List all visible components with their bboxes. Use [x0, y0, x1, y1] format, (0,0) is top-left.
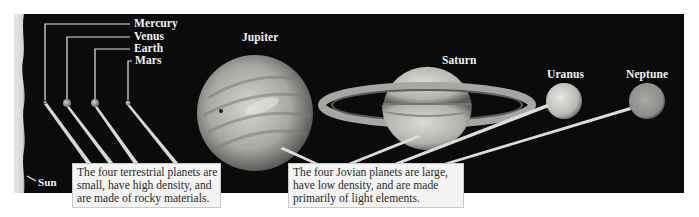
mars-planet — [126, 101, 131, 106]
neptune-label: Neptune — [626, 69, 668, 81]
uranus-label: Uranus — [547, 69, 584, 81]
venus-planet — [63, 99, 71, 107]
jupiter-label: Jupiter — [242, 32, 278, 44]
terrestrial-caption-line-3: are made of rocky materials. — [77, 192, 216, 205]
sun-label: Sun — [38, 177, 57, 188]
solar-system-diagram: Mercury Venus Earth Mars Jupiter Saturn … — [0, 0, 699, 217]
jovian-caption-line-3: primarily of light elements. — [293, 192, 459, 205]
mars-label: Mars — [135, 55, 162, 67]
jovian-caption: The four Jovian planets are large, have … — [288, 163, 464, 208]
uranus-planet — [546, 83, 582, 119]
terrestrial-caption-line-2: small, have high density, and — [77, 179, 216, 192]
terrestrial-caption: The four terrestrial planets are small, … — [72, 163, 221, 208]
neptune-planet — [629, 83, 665, 119]
saturn-label: Saturn — [442, 55, 476, 67]
mercury-label: Mercury — [134, 18, 178, 30]
earth-planet — [91, 99, 99, 107]
earth-label: Earth — [134, 43, 163, 55]
mercury-planet — [44, 101, 47, 104]
jovian-caption-line-2: have low density, and are made — [293, 179, 459, 192]
terrestrial-caption-line-1: The four terrestrial planets are — [77, 166, 216, 179]
venus-label: Venus — [134, 31, 164, 43]
jovian-caption-line-1: The four Jovian planets are large, — [293, 166, 459, 179]
